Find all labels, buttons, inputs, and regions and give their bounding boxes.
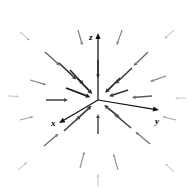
axis-label-x: x bbox=[50, 118, 56, 128]
vector-field-plot: z x y bbox=[0, 0, 192, 195]
axis-label-z: z bbox=[88, 32, 93, 42]
plot-background bbox=[0, 0, 192, 195]
vector-field-figure: z x y bbox=[0, 0, 192, 195]
